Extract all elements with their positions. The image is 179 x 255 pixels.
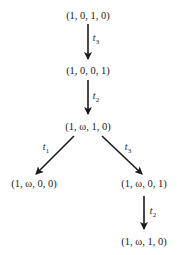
edge-label-t3-right: t3 bbox=[125, 141, 131, 155]
edge-n2-n3-arrow bbox=[36, 136, 74, 174]
node-right-branch: (1, ω, 0, 1) bbox=[121, 178, 166, 189]
node-left-leaf: (1, ω, 0, 0) bbox=[11, 178, 56, 189]
node-level1: (1, 0, 0, 1) bbox=[66, 65, 110, 76]
edge-n2-n4-arrow bbox=[102, 136, 142, 174]
node-level2: (1, ω, 1, 0) bbox=[65, 121, 110, 132]
edge-label-t1-left: t1 bbox=[43, 141, 49, 155]
edge-label-t2-middle: t2 bbox=[93, 90, 99, 104]
coverability-tree-diagram: (1, 0, 1, 0) (1, 0, 0, 1) (1, ω, 1, 0) (… bbox=[0, 0, 179, 255]
edge-label-t2-bottom: t2 bbox=[150, 205, 156, 219]
edge-label-t3-top: t3 bbox=[93, 32, 99, 46]
node-root: (1, 0, 1, 0) bbox=[66, 10, 110, 21]
node-right-leaf: (1, ω, 1, 0) bbox=[121, 236, 166, 247]
